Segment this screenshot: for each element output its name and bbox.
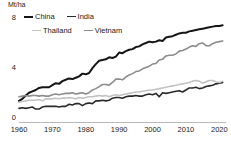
y-tick-label-8: 8 xyxy=(6,13,16,22)
x-tick-label-2020: 2020 xyxy=(211,125,228,135)
plot-area xyxy=(19,13,226,122)
y-axis-unit-label: Mt/ha xyxy=(8,1,26,9)
series-line-thailand xyxy=(19,80,223,102)
x-tick-label-1990: 1990 xyxy=(111,125,128,135)
x-tick-label-1970: 1970 xyxy=(44,125,61,135)
x-tick-label-1980: 1980 xyxy=(77,125,94,135)
rice-yield-line-chart: Mt/ha China India Thailand Vietnam 8 4 0 xyxy=(0,0,231,146)
x-tick-label-1960: 1960 xyxy=(11,125,28,135)
x-axis-line xyxy=(19,122,226,123)
series-lines xyxy=(19,13,226,122)
x-axis-tick-labels: 1960197019801990200020102020 xyxy=(19,125,226,139)
x-tick-label-2010: 2010 xyxy=(178,125,195,135)
x-tick-label-2000: 2000 xyxy=(144,125,161,135)
series-line-china xyxy=(19,25,223,101)
y-tick-label-4: 4 xyxy=(6,63,16,72)
y-tick-label-0: 0 xyxy=(6,113,16,122)
